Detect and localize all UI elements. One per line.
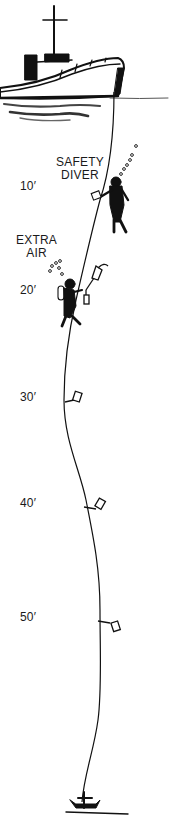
extra-air-label-line2: AIR bbox=[16, 247, 57, 260]
safety-diver-label-line2: DIVER bbox=[56, 169, 104, 182]
extra-air-diver-icon bbox=[58, 279, 82, 326]
extra-air-label: EXTRA AIR bbox=[16, 234, 57, 260]
tag-50-icon bbox=[98, 621, 120, 632]
depth-marker-30: 30′ bbox=[20, 391, 36, 404]
descent-line-diagram bbox=[0, 0, 179, 816]
depth-marker-50: 50′ bbox=[20, 611, 36, 624]
depth-marker-20: 20′ bbox=[20, 284, 36, 297]
anchor-icon bbox=[66, 792, 128, 814]
depth-marker-40: 40′ bbox=[20, 497, 36, 510]
descent-line bbox=[64, 92, 114, 802]
bubbles-icon bbox=[49, 260, 64, 276]
safety-diver-icon bbox=[91, 177, 128, 232]
safety-diver-label: SAFETY DIVER bbox=[56, 156, 104, 182]
regulator-icon bbox=[84, 264, 108, 304]
bubbles-icon bbox=[120, 145, 138, 176]
depth-marker-10: 10′ bbox=[20, 180, 36, 193]
boat-icon bbox=[0, 6, 168, 121]
tag-30-icon bbox=[65, 391, 82, 402]
